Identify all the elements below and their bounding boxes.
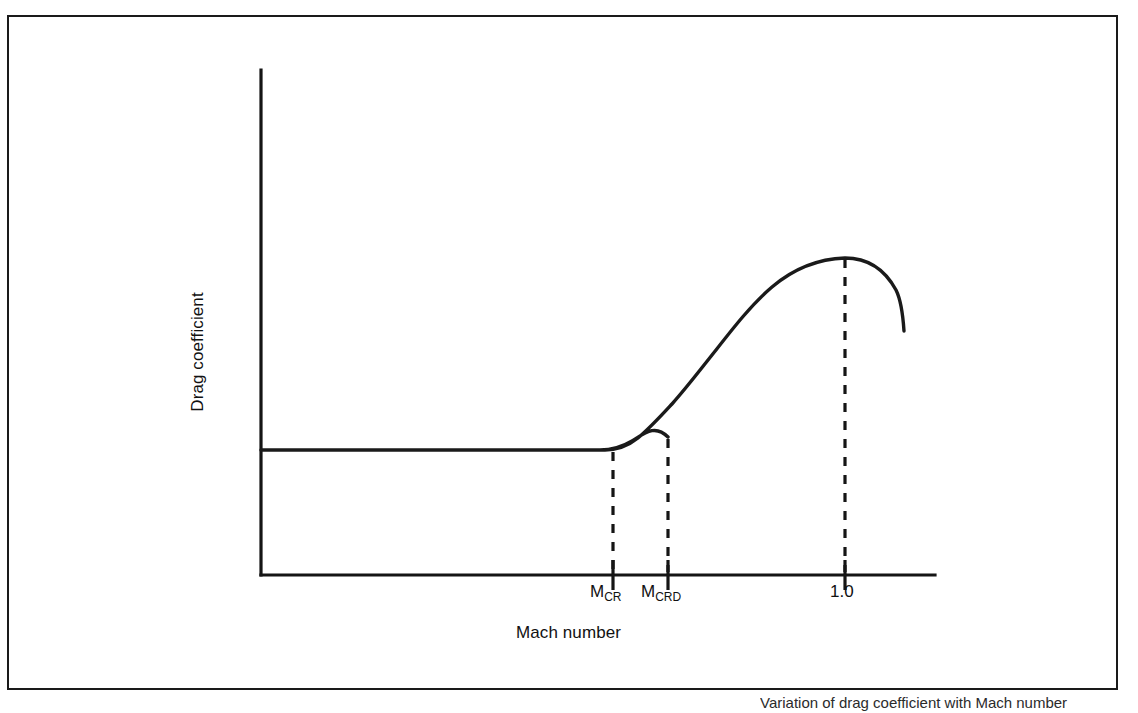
x-axis-title: Mach number [516, 623, 621, 643]
x-tick-label-mcrd-sub: CRD [655, 590, 681, 604]
y-axis-title: Drag coefficient [183, 252, 213, 452]
x-tick-label-mach-one: 1.0 [830, 583, 854, 600]
plot-canvas [0, 0, 1138, 713]
x-tick-label-mcr-main: M [590, 582, 604, 601]
figure-root: Drag coefficient Mach number MCR MCRD 1.… [0, 0, 1138, 713]
figure-caption: Variation of drag coefficient with Mach … [760, 697, 1138, 713]
x-tick-label-mcrd: MCRD [641, 583, 681, 603]
drag-coefficient-curve [261, 258, 904, 450]
x-tick-label-mcr: MCR [590, 583, 622, 603]
y-axis-title-text: Drag coefficient [188, 292, 208, 411]
x-tick-label-mcrd-main: M [641, 582, 655, 601]
x-tick-label-mcr-sub: CR [604, 590, 621, 604]
figure-caption-text: Variation of drag coefficient with Mach … [760, 697, 1067, 711]
